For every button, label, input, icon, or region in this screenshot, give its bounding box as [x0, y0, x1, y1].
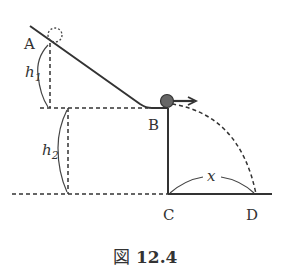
h2-brace	[58, 110, 67, 192]
ball	[161, 95, 174, 108]
label-h1: h1	[25, 63, 42, 84]
label-h2: h2	[42, 141, 59, 162]
x-arc-left	[170, 177, 203, 193]
physics-diagram: A h1 h2 B x C D 図12.4	[0, 0, 289, 272]
label-x: x	[207, 167, 216, 185]
label-b: B	[148, 116, 159, 134]
x-arc-right	[221, 177, 254, 193]
label-a: A	[23, 35, 35, 53]
label-c: C	[163, 206, 174, 224]
label-d: D	[246, 206, 258, 224]
initial-ball-position	[48, 28, 62, 42]
figure-caption: 図12.4	[113, 247, 178, 267]
